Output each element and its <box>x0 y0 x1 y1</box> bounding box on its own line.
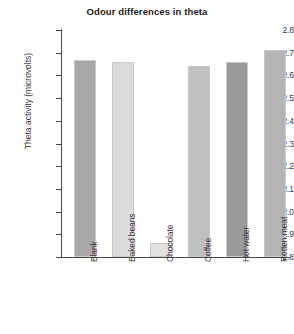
y-axis-tick <box>56 30 61 31</box>
y-axis-tick <box>56 144 61 145</box>
y-axis-tick <box>56 75 61 76</box>
bar-coffee <box>188 66 210 257</box>
x-axis-tick-label: Hot water <box>241 227 251 262</box>
x-axis-tick-label: Baked beans <box>127 213 137 262</box>
y-axis-tick <box>56 212 61 213</box>
y-axis-tick <box>56 166 61 167</box>
bar-chart: Odour differences in theta 2.82.72.62.52… <box>0 0 294 334</box>
plot-area <box>62 30 290 257</box>
y-axis-tick <box>56 98 61 99</box>
bar-blank <box>74 60 96 257</box>
x-axis-tick-label: Blank <box>89 241 99 262</box>
y-axis-tick <box>56 234 61 235</box>
chart-title: Odour differences in theta <box>0 6 294 17</box>
x-axis-tick-label: Chocolate <box>165 225 175 262</box>
x-axis-tick-label: Rotten meat <box>279 217 289 262</box>
y-axis-tick <box>56 53 61 54</box>
y-axis-tick <box>56 189 61 190</box>
y-axis-tick <box>56 121 61 122</box>
y-axis-tick <box>56 257 61 258</box>
x-axis-tick-label: Coffee <box>203 238 213 262</box>
y-axis-title: Theta activity (microvolts) <box>23 16 33 186</box>
